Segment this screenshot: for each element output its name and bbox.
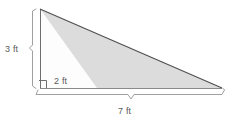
dimension-label-side: 2 ft (54, 76, 67, 86)
triangle-diagram-svg (0, 0, 233, 126)
height-brace (30, 9, 37, 89)
geometry-figure: 3 ft 2 ft 7 ft (0, 0, 233, 126)
dimension-label-base: 7 ft (118, 106, 131, 116)
base-brace (36, 90, 225, 99)
base-brace-right-tick (223, 88, 225, 90)
dimension-label-height: 3 ft (5, 44, 18, 54)
